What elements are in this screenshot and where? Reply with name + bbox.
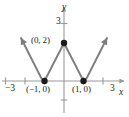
- y-tick-label-3: 3: [56, 17, 61, 27]
- curve-right-ray: [87, 38, 108, 79]
- point-label-local-max: (0, 2): [31, 36, 50, 45]
- point-label-left-root: (−1, 0): [26, 85, 50, 94]
- point-label-right-root: (1, 0): [72, 85, 91, 94]
- x-tick-label-neg3: −3: [5, 84, 15, 94]
- curve-right-inner: [64, 43, 84, 81]
- x-axis: [2, 78, 124, 85]
- x-axis-label: x: [119, 88, 123, 98]
- math-graph-figure: y x 3 −3 3 (0, 2) (−1, 0) (1, 0): [0, 0, 129, 117]
- curve-left-inner: [45, 43, 65, 81]
- graph-canvas: [0, 0, 129, 117]
- x-tick-label-3: 3: [110, 84, 115, 94]
- point-local-max: [61, 40, 67, 46]
- y-axis-label: y: [62, 3, 66, 13]
- y-axis: [61, 7, 68, 113]
